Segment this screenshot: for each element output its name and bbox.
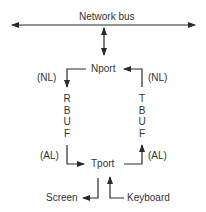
network-bus-label: Network bus: [79, 12, 135, 22]
tport-node: Tport: [91, 159, 114, 169]
keyboard-label: Keyboard: [127, 193, 170, 203]
nport-node: Nport: [91, 64, 115, 74]
rbuf-letter: F: [62, 128, 72, 140]
rbuf-letter: U: [62, 116, 72, 128]
nport-to-rbuf-arrow: [67, 69, 86, 87]
tport-to-tbuf-arrow: [124, 145, 142, 164]
screen-label: Screen: [46, 193, 78, 203]
nl-annotation-right: (NL): [148, 73, 167, 83]
tbuf-to-nport-arrow: [124, 69, 142, 87]
rbuf-letter: R: [62, 93, 72, 105]
rbuf-to-tport-arrow: [67, 145, 84, 164]
rbuf-letter: B: [62, 105, 72, 117]
al-annotation-left: (AL): [40, 151, 59, 161]
al-annotation-right: (AL): [148, 151, 167, 161]
tbuf-letter: T: [137, 93, 147, 105]
rbuf-buffer: R B U F: [62, 93, 72, 139]
tport-to-screen-arrow: [83, 178, 98, 198]
tbuf-letter: U: [137, 116, 147, 128]
tbuf-buffer: T B U F: [137, 93, 147, 139]
keyboard-to-tport-arrow: [110, 177, 124, 198]
tbuf-letter: F: [137, 128, 147, 140]
diagram-wires: [0, 0, 206, 212]
tbuf-letter: B: [137, 105, 147, 117]
nl-annotation-left: (NL): [37, 73, 56, 83]
